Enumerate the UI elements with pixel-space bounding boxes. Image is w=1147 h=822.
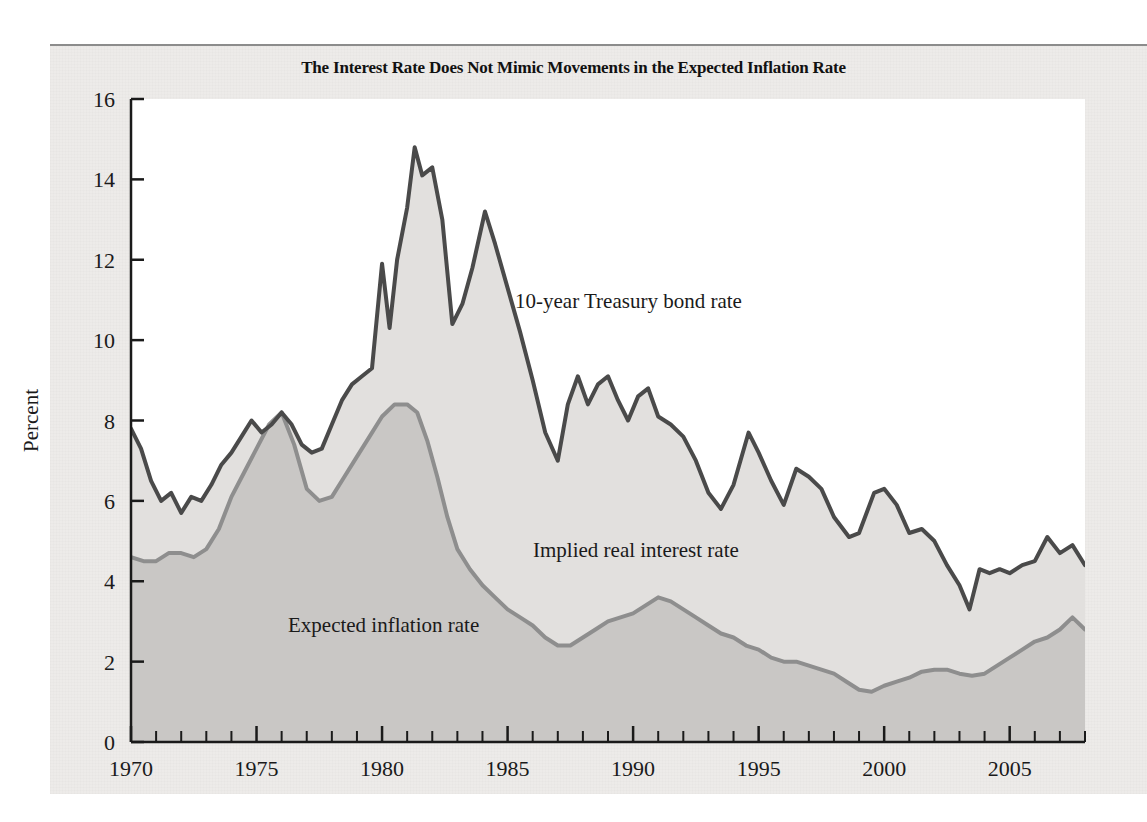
annotation-implied-real-interest-rate: Implied real interest rate — [533, 538, 739, 562]
y-axis-tick-label: 6 — [104, 489, 115, 514]
x-axis-tick-label: 1985 — [486, 756, 530, 781]
x-axis-tick-label: 1980 — [360, 756, 404, 781]
y-axis-tick-label: 4 — [104, 569, 115, 594]
chart-figure: The Interest Rate Does Not Mimic Movemen… — [0, 0, 1147, 822]
y-axis-title: Percent — [19, 389, 43, 452]
y-axis-tick-label: 2 — [104, 650, 115, 675]
x-axis-tick-label: 2000 — [862, 756, 906, 781]
y-axis-tick-label: 8 — [104, 409, 115, 434]
y-axis-tick-label: 12 — [93, 248, 115, 273]
y-axis-tick-label: 10 — [93, 328, 115, 353]
x-axis-tick-label: 1975 — [235, 756, 279, 781]
y-axis-tick-label: 16 — [93, 87, 115, 112]
x-axis-tick-label: 2005 — [988, 756, 1032, 781]
y-axis-tick-label: 0 — [104, 730, 115, 755]
x-axis-tick-label: 1970 — [109, 756, 153, 781]
x-axis-tick-label: 1995 — [737, 756, 781, 781]
x-axis-tick-label: 1990 — [611, 756, 655, 781]
y-axis-tick-label: 14 — [93, 167, 115, 192]
annotation-expected-inflation-rate: Expected inflation rate — [288, 613, 479, 637]
annotation-treasury-bond-rate: 10-year Treasury bond rate — [515, 289, 742, 313]
chart-plot: 0246810121416Percent19701975198019851990… — [0, 0, 1147, 822]
